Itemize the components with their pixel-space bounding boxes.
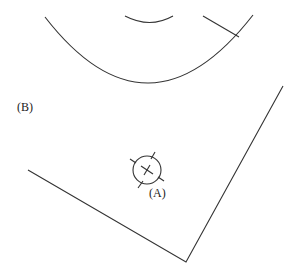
outer-arc [45,15,253,83]
inner-arc [125,16,173,23]
radial-line [203,16,239,37]
label-a: (A) [149,186,166,201]
crosshair-line-2 [144,165,150,175]
label-b: (B) [17,100,33,115]
diagram-svg [0,0,298,279]
tick-se [158,177,164,181]
diagram-canvas: (B) (A) [0,0,298,279]
corner-lines [28,86,283,262]
tick-nw [130,159,136,163]
